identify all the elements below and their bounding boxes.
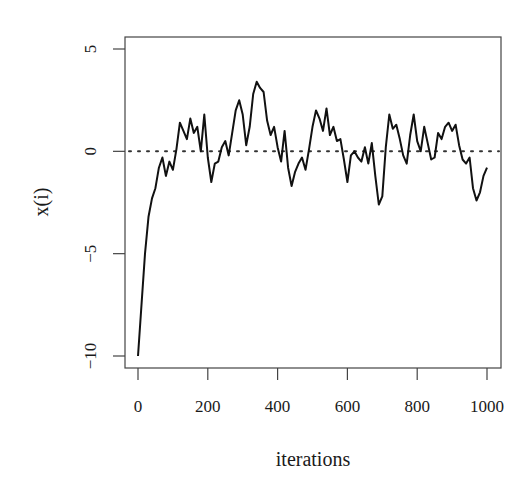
- x-axis: 02004006008001000: [134, 368, 504, 416]
- y-tick-label: −5: [81, 245, 100, 263]
- x-tick-label: 200: [195, 397, 221, 416]
- y-axis: −10−505: [81, 45, 125, 370]
- y-tick-label: 5: [81, 45, 100, 54]
- x-tick-label: 600: [335, 397, 361, 416]
- x-tick-label: 1000: [470, 397, 504, 416]
- y-tick-label: 0: [81, 147, 100, 156]
- trace-line: [138, 82, 487, 356]
- trace-plot: 02004006008001000 −10−505 iterations x(i…: [0, 0, 531, 479]
- y-axis-title: x(i): [30, 188, 53, 217]
- plot-box: [125, 37, 501, 368]
- x-tick-label: 400: [265, 397, 291, 416]
- y-tick-label: −10: [81, 343, 100, 370]
- x-tick-label: 0: [134, 397, 143, 416]
- x-axis-title: iterations: [276, 448, 351, 470]
- x-tick-label: 800: [404, 397, 430, 416]
